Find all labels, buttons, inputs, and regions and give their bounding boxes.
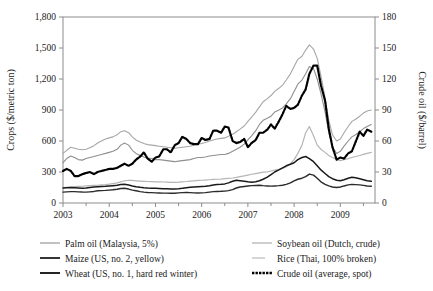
- x-axis-tick-label: 2006: [192, 210, 211, 220]
- legend-label-2: Maize (US, no. 2, yellow): [65, 254, 164, 265]
- x-axis-tick-label: 2005: [146, 210, 165, 220]
- legend-label-0: Palm oil (Malaysia, 5%): [65, 239, 158, 250]
- x-axis-tick-label: 2004: [100, 210, 119, 220]
- y-axis-tick-label: 1,500: [35, 43, 57, 53]
- commodity-price-chart: 03006009001,2001,5001,800030609012015018…: [0, 0, 433, 291]
- legend-label-1: Soybean oil (Dutch, crude): [277, 239, 380, 250]
- chart-figure: 03006009001,2001,5001,800030609012015018…: [0, 0, 433, 291]
- y2-axis-tick-label: 90: [382, 105, 392, 115]
- x-axis-tick-label: 2008: [285, 210, 304, 220]
- y2-axis-tick-label: 120: [382, 74, 397, 84]
- x-axis-tick-label: 2007: [238, 210, 257, 220]
- y2-axis-tick-label: 30: [382, 167, 392, 177]
- y-axis-title: Crops ($/metric ton): [5, 69, 17, 151]
- y2-axis-tick-label: 180: [382, 12, 397, 22]
- y-axis-tick-label: 900: [42, 105, 57, 115]
- y-axis-tick-label: 1,800: [35, 12, 57, 22]
- y2-axis-tick-label: 60: [382, 136, 392, 146]
- x-axis-tick-label: 2009: [331, 210, 350, 220]
- y-axis-tick-label: 1,200: [35, 74, 57, 84]
- legend-label-4: Wheat (US, no. 1, hard red winter): [65, 269, 197, 280]
- x-axis-tick-label: 2003: [54, 210, 73, 220]
- y-axis-tick-label: 300: [42, 167, 57, 177]
- y-axis-tick-label: 600: [42, 136, 57, 146]
- y2-axis-title: Crude oil ($/barrel): [416, 71, 428, 149]
- legend-label-5: Crude oil (average, spot): [277, 269, 371, 280]
- y2-axis-tick-label: 150: [382, 43, 397, 53]
- y2-axis-tick-label: 0: [382, 198, 387, 208]
- legend-label-3: Rice (Thai, 100% broken): [277, 254, 376, 265]
- y-axis-tick-label: 0: [51, 198, 56, 208]
